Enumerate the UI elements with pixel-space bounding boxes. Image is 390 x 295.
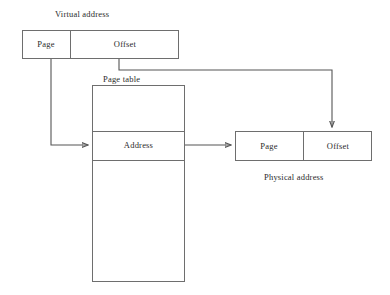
physical-page-field: Page (235, 141, 303, 151)
diagram-canvas: Virtual address Page table Physical addr… (0, 0, 390, 295)
virtual-page-field: Page (22, 39, 70, 49)
page-table-row-divider-top (92, 131, 185, 132)
physical-offset-field: Offset (304, 141, 372, 151)
connector-page-to-page-table (51, 59, 88, 145)
virtual-address-caption: Virtual address (55, 9, 109, 19)
physical-address-caption: Physical address (264, 172, 324, 182)
page-table-caption: Page table (103, 74, 140, 84)
page-table-box (92, 85, 185, 282)
page-table-address-row: Address (92, 140, 185, 150)
page-table-row-divider-bottom (92, 160, 185, 161)
virtual-offset-field: Offset (71, 39, 179, 49)
